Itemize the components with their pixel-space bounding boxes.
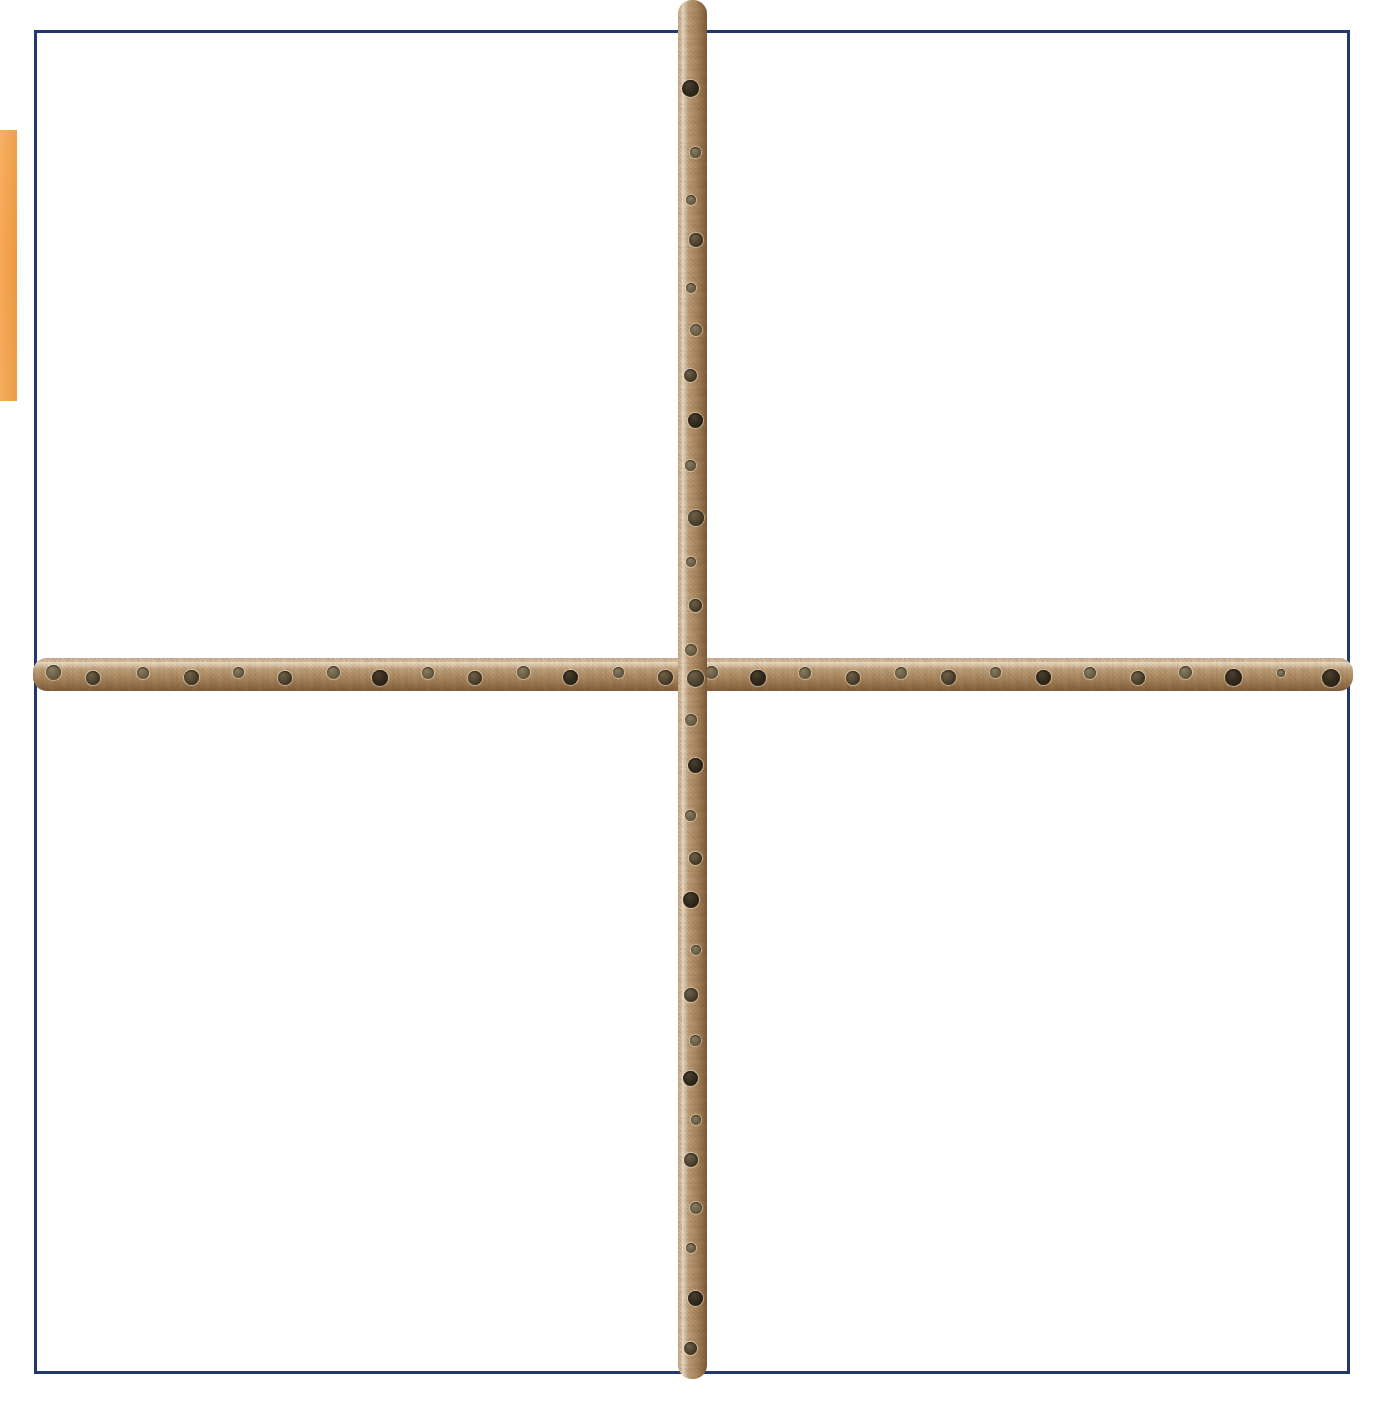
dowel-hole xyxy=(688,758,703,773)
dowel-hole xyxy=(684,1342,697,1355)
dowel-hole xyxy=(686,283,696,293)
dowel-hole xyxy=(684,1153,698,1167)
dowel-hole xyxy=(689,852,702,865)
dowel-hole xyxy=(688,510,704,526)
dowel-hole xyxy=(517,666,530,679)
dowel-hole xyxy=(686,195,696,205)
dowel-hole xyxy=(685,810,696,821)
vertical-dowel-rod xyxy=(678,0,707,1379)
dowel-hole xyxy=(686,557,696,567)
dowel-hole xyxy=(689,233,703,247)
dowel-hole xyxy=(278,671,292,685)
dowel-hole xyxy=(691,1115,701,1125)
dowel-hole xyxy=(685,644,697,656)
dowel-hole xyxy=(685,460,696,471)
vertical-rod-body xyxy=(678,0,707,1379)
dowel-hole xyxy=(1179,666,1192,679)
dowel-hole xyxy=(895,667,907,679)
dowel-hole xyxy=(613,667,624,678)
dowel-hole xyxy=(86,671,100,685)
dowel-hole xyxy=(137,667,149,679)
dowel-hole xyxy=(1277,669,1285,677)
dowel-hole xyxy=(683,892,699,908)
dowel-hole xyxy=(658,670,673,685)
dowel-hole xyxy=(690,324,702,336)
dowel-hole xyxy=(683,1071,698,1086)
dowel-hole xyxy=(690,147,701,158)
dowel-hole xyxy=(750,670,766,686)
page-canvas xyxy=(0,0,1387,1414)
dowel-hole xyxy=(1225,669,1242,686)
dowel-hole xyxy=(1036,670,1051,685)
dowel-hole xyxy=(846,671,860,685)
dowel-hole xyxy=(682,80,699,97)
dowel-hole xyxy=(1084,667,1096,679)
dowel-hole xyxy=(685,714,697,726)
dowel-hole xyxy=(941,670,956,685)
dowel-hole xyxy=(687,670,704,687)
dowel-hole xyxy=(688,1291,703,1306)
dowel-hole xyxy=(691,945,701,955)
dowel-hole xyxy=(690,1035,701,1046)
dowel-hole xyxy=(46,665,61,680)
dowel-hole xyxy=(422,667,434,679)
dowel-hole xyxy=(684,369,697,382)
dowel-hole xyxy=(468,671,482,685)
dowel-hole xyxy=(233,667,244,678)
image-caption xyxy=(0,0,1,1)
dowel-hole xyxy=(799,667,811,679)
dowel-hole xyxy=(689,599,702,612)
dowel-hole xyxy=(563,670,578,685)
dowel-hole xyxy=(1131,671,1145,685)
orange-edge-tab[interactable] xyxy=(0,130,17,401)
dowel-hole xyxy=(327,666,340,679)
dowel-hole xyxy=(684,988,698,1002)
dowel-hole xyxy=(990,667,1001,678)
dowel-hole xyxy=(690,1202,702,1214)
dowel-hole xyxy=(1322,669,1340,687)
dowel-hole xyxy=(184,670,199,685)
dowel-hole xyxy=(686,1243,696,1253)
dowel-hole xyxy=(372,670,388,686)
dowel-hole xyxy=(688,413,703,428)
